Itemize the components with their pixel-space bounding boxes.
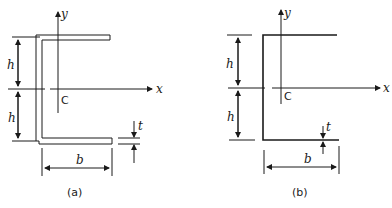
- h-lower-label: h: [227, 110, 235, 124]
- x-axis-label: x: [156, 82, 163, 96]
- y-axis-label: y: [283, 6, 291, 20]
- x-axis-label: x: [383, 81, 390, 95]
- b-label: b: [76, 153, 84, 167]
- figure-b: y x C h h b t (b): [226, 6, 390, 199]
- centroid-label: C: [61, 94, 69, 107]
- figure-a: y x C h h b t (a): [7, 7, 163, 199]
- centroid-label: C: [284, 90, 292, 103]
- h-lower-label: h: [8, 111, 16, 125]
- t-label: t: [138, 119, 143, 133]
- b-label: b: [304, 152, 312, 166]
- y-axis-label: y: [60, 7, 68, 21]
- caption-b: (b): [292, 186, 308, 199]
- h-upper-label: h: [7, 58, 15, 72]
- caption-a: (a): [67, 186, 82, 199]
- h-upper-label: h: [226, 57, 234, 71]
- t-label: t: [326, 120, 331, 134]
- diagram-canvas: y x C h h b t (a): [0, 0, 392, 208]
